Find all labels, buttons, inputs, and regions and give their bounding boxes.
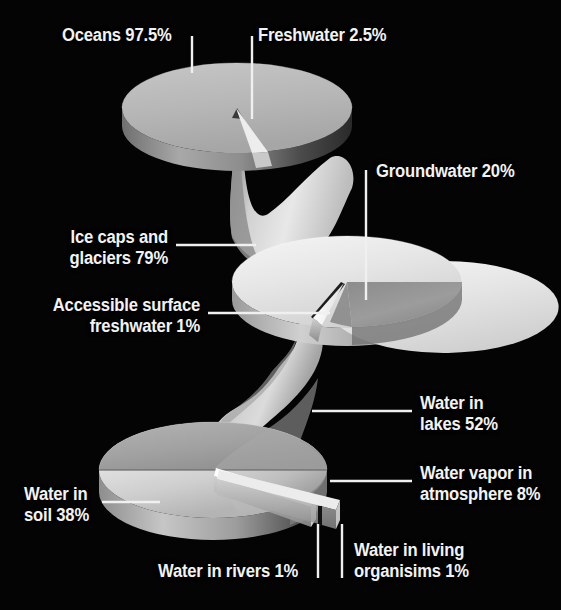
pie-level-1-global-water: [122, 63, 352, 171]
label-rivers: Water in rivers 1%: [158, 561, 298, 582]
label-oceans: Oceans 97.5%: [62, 25, 172, 46]
label-accessible-surface-freshwater: Accessible surface freshwater 1%: [10, 295, 200, 337]
pie-level-2-freshwater-breakdown: [232, 236, 559, 353]
label-soil: Water in soil 38%: [24, 484, 89, 526]
pie-level-3-accessible-breakdown: [99, 378, 340, 540]
infographic-canvas: Oceans 97.5% Freshwater 2.5% Groundwater…: [0, 0, 561, 610]
label-groundwater: Groundwater 20%: [376, 161, 515, 182]
label-lakes: Water in lakes 52%: [420, 393, 498, 435]
label-water-vapor: Water vapor in atmosphere 8%: [420, 463, 540, 505]
label-freshwater: Freshwater 2.5%: [258, 25, 386, 46]
label-ice-caps: Ice caps and glaciers 79%: [8, 227, 168, 269]
label-living-organisms: Water in living organisims 1%: [354, 540, 469, 582]
